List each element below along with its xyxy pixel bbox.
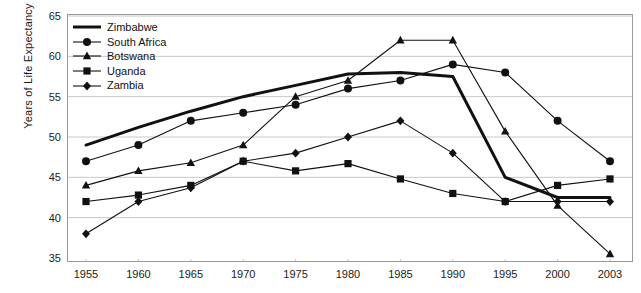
x-tick-label: 1970 bbox=[221, 268, 265, 280]
legend-symbol-diamond-icon bbox=[72, 79, 102, 93]
legend-item-botswana[interactable]: Botswana bbox=[72, 49, 166, 64]
data-point bbox=[344, 76, 352, 84]
data-point bbox=[396, 116, 404, 125]
line-chart: Years of Life Expectancy 35404550556065 … bbox=[0, 0, 641, 293]
data-point bbox=[554, 182, 561, 189]
x-tick-label: 2000 bbox=[536, 268, 580, 280]
legend-symbol-line-icon bbox=[72, 20, 102, 34]
legend-label: Zimbabwe bbox=[107, 20, 158, 35]
data-point bbox=[239, 109, 247, 117]
x-tick-label: 1960 bbox=[116, 268, 160, 280]
data-point bbox=[82, 229, 90, 238]
data-point bbox=[292, 149, 300, 158]
y-tick-label: 65 bbox=[33, 10, 61, 22]
y-axis-title: Years of Life Expectancy bbox=[22, 0, 34, 146]
x-tick-label: 1965 bbox=[169, 268, 213, 280]
x-tick-label: 1980 bbox=[326, 268, 370, 280]
x-tick-label: 1990 bbox=[431, 268, 475, 280]
data-point bbox=[344, 160, 351, 167]
data-point bbox=[396, 36, 404, 44]
legend-symbol-triangle-icon bbox=[72, 49, 102, 63]
x-tick-label: 1995 bbox=[483, 268, 527, 280]
data-point bbox=[292, 101, 300, 109]
legend-item-south-africa[interactable]: South Africa bbox=[72, 35, 166, 50]
legend-item-zambia[interactable]: Zambia bbox=[72, 78, 166, 93]
data-point bbox=[187, 117, 195, 125]
data-point bbox=[554, 117, 562, 125]
data-point bbox=[292, 167, 299, 174]
data-point bbox=[606, 175, 613, 182]
legend-item-zimbabwe[interactable]: Zimbabwe bbox=[72, 20, 166, 35]
data-point bbox=[449, 190, 456, 197]
x-tick-label: 1985 bbox=[378, 268, 422, 280]
data-point bbox=[501, 127, 509, 135]
data-point bbox=[397, 175, 404, 182]
data-point bbox=[134, 141, 142, 149]
data-point bbox=[449, 36, 457, 44]
legend-symbol-square-icon bbox=[72, 64, 102, 78]
y-tick-label: 60 bbox=[33, 50, 61, 62]
legend-label: Botswana bbox=[107, 49, 155, 64]
data-point bbox=[82, 198, 89, 205]
legend-label: Zambia bbox=[107, 78, 144, 93]
legend-symbol-circle-icon bbox=[72, 35, 102, 49]
y-tick-label: 45 bbox=[33, 171, 61, 183]
data-point bbox=[396, 77, 404, 85]
data-point bbox=[344, 85, 352, 93]
legend-label: South Africa bbox=[107, 35, 166, 50]
data-point bbox=[449, 60, 457, 68]
legend-label: Uganda bbox=[107, 64, 146, 79]
data-point bbox=[501, 68, 509, 76]
x-tick-label: 1955 bbox=[64, 268, 108, 280]
x-tick-label: 2003 bbox=[588, 268, 632, 280]
data-point bbox=[82, 157, 90, 165]
data-point bbox=[344, 133, 352, 142]
y-tick-label: 35 bbox=[33, 252, 61, 264]
x-tick-label: 1975 bbox=[274, 268, 318, 280]
y-tick-label: 55 bbox=[33, 91, 61, 103]
data-point bbox=[606, 157, 614, 165]
legend-item-uganda[interactable]: Uganda bbox=[72, 64, 166, 79]
y-tick-label: 50 bbox=[33, 131, 61, 143]
chart-legend: ZimbabweSouth AfricaBotswanaUgandaZambia bbox=[72, 20, 166, 93]
y-tick-label: 40 bbox=[33, 212, 61, 224]
